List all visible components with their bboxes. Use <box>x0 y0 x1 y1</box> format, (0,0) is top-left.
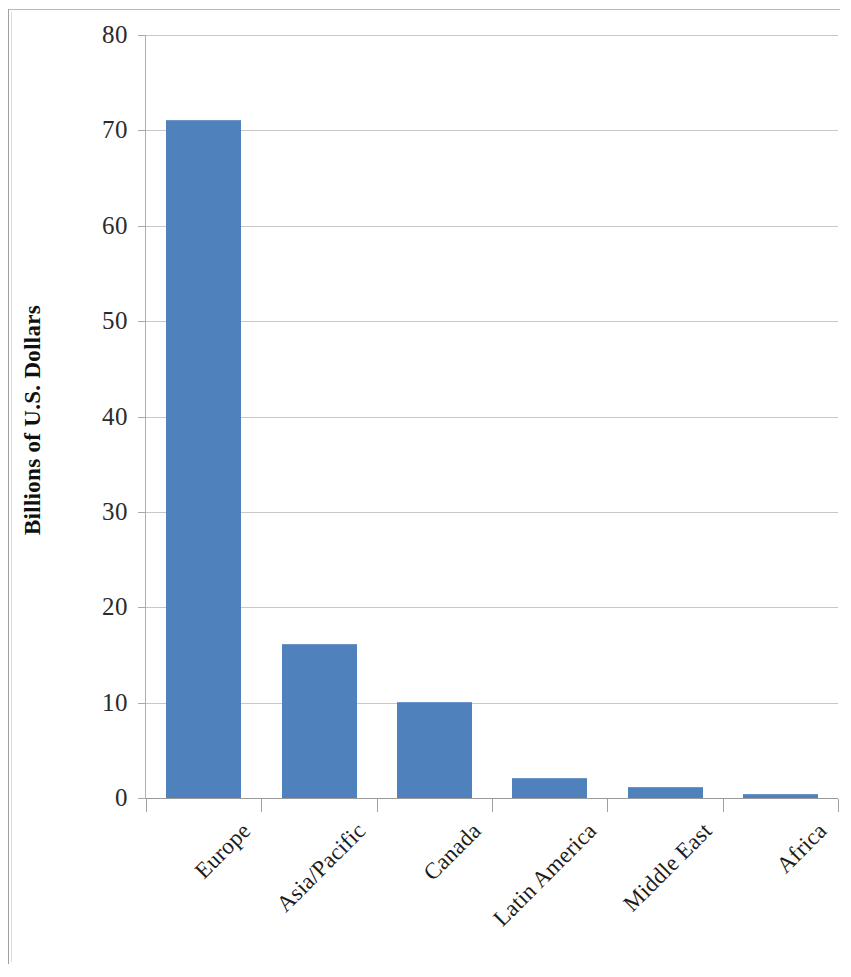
y-tick-label-wrap: 30 <box>0 499 128 525</box>
y-tick-mark-20 <box>138 607 146 608</box>
y-tick-label-wrap: 40 <box>0 404 128 430</box>
plot-area <box>146 35 838 798</box>
x-tick-label-middle-east: Middle East <box>618 818 717 917</box>
y-tick-label: 0 <box>58 785 128 810</box>
x-tick-mark-4 <box>607 799 608 812</box>
x-tick-mark-5 <box>723 799 724 812</box>
gridline-70 <box>146 130 838 131</box>
x-tick-label-asia-pacific: Asia/Pacific <box>272 818 372 918</box>
y-tick-label: 30 <box>58 499 128 524</box>
page-border-top <box>8 9 840 10</box>
y-tick-label-wrap: 70 <box>0 117 128 143</box>
gridline-60 <box>146 226 838 227</box>
y-tick-label: 70 <box>58 117 128 142</box>
y-tick-label-wrap: 50 <box>0 308 128 334</box>
gridline-10 <box>146 703 838 704</box>
y-tick-label: 50 <box>58 308 128 333</box>
y-tick-mark-0 <box>138 798 146 799</box>
bar-asia-pacific <box>282 644 357 798</box>
y-tick-mark-50 <box>138 321 146 322</box>
y-tick-mark-40 <box>138 417 146 418</box>
y-tick-mark-30 <box>138 512 146 513</box>
y-tick-label-wrap: 80 <box>0 22 128 48</box>
x-tick-mark-6 <box>838 799 839 812</box>
page-border-left-inner <box>11 12 12 962</box>
y-tick-label-wrap: 20 <box>0 594 128 620</box>
bar-europe <box>166 120 241 798</box>
y-tick-label: 40 <box>58 404 128 429</box>
y-tick-label-wrap: 0 <box>0 785 128 811</box>
y-tick-mark-70 <box>138 130 146 131</box>
bar-latin-america <box>512 778 587 798</box>
x-tick-mark-1 <box>261 799 262 812</box>
y-tick-label: 20 <box>58 594 128 619</box>
gridline-30 <box>146 512 838 513</box>
gridline-80 <box>146 35 838 36</box>
y-tick-mark-10 <box>138 703 146 704</box>
y-tick-label: 80 <box>58 22 128 47</box>
y-tick-mark-80 <box>138 35 146 36</box>
y-tick-mark-60 <box>138 226 146 227</box>
x-tick-label-europe: Europe <box>190 818 256 884</box>
y-tick-label: 10 <box>58 690 128 715</box>
x-tick-mark-3 <box>492 799 493 812</box>
gridline-40 <box>146 417 838 418</box>
x-tick-label-latin-america: Latin America <box>488 818 602 932</box>
x-tick-label-canada: Canada <box>419 818 487 886</box>
y-tick-label: 60 <box>58 213 128 238</box>
y-tick-label-wrap: 60 <box>0 213 128 239</box>
x-tick-mark-2 <box>377 799 378 812</box>
y-tick-label-wrap: 10 <box>0 690 128 716</box>
x-tick-mark-0 <box>146 799 147 812</box>
page-border-left <box>8 9 9 964</box>
bar-canada <box>397 702 472 798</box>
gridline-50 <box>146 321 838 322</box>
bar-middle-east <box>628 787 703 798</box>
chart-page: Billions of U.S. Dollars 010203040506070… <box>0 0 851 977</box>
gridline-20 <box>146 607 838 608</box>
x-tick-label-africa: Africa <box>772 818 833 879</box>
